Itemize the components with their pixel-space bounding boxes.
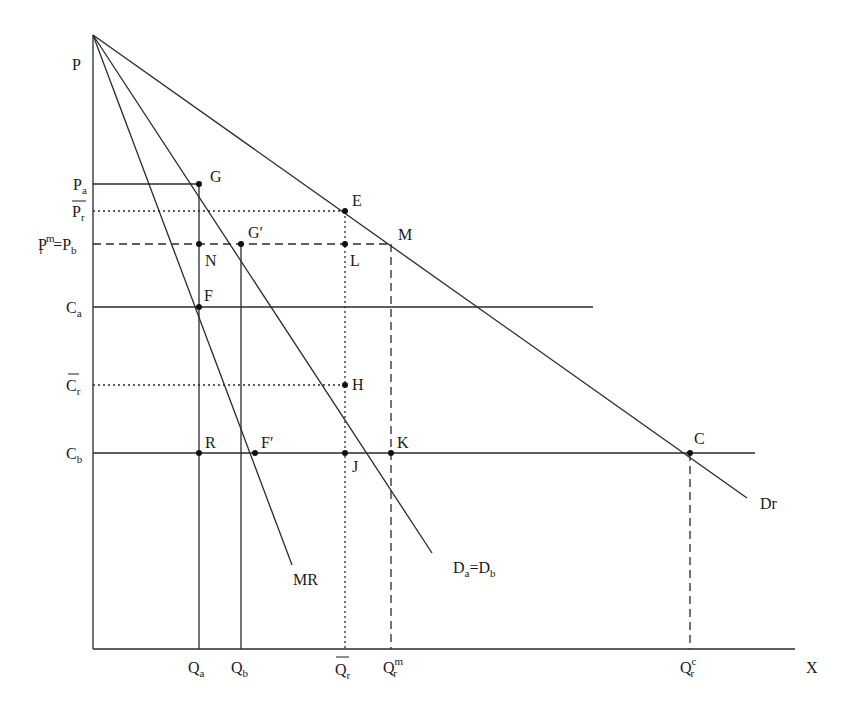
label-point-n: N	[205, 252, 217, 269]
label-point-r: R	[205, 434, 216, 451]
label-cb: Cb	[66, 445, 83, 465]
label-point-f-prime: F′	[261, 434, 273, 451]
label-cr-bar: Cr	[66, 377, 81, 397]
point-h	[342, 382, 348, 388]
label-point-c: C	[694, 430, 705, 447]
label-point-l: L	[350, 252, 360, 269]
point-f	[196, 304, 202, 310]
dr-demand-curve	[93, 35, 747, 498]
point-g-prime	[238, 241, 244, 247]
point-n	[196, 241, 202, 247]
point-g	[196, 181, 202, 187]
mr-curve	[93, 35, 292, 565]
label-qrm: Qmr	[383, 655, 404, 679]
label-dr: Dr	[760, 495, 778, 512]
point-k	[388, 450, 394, 456]
label-point-m: M	[398, 226, 412, 243]
point-r	[196, 450, 202, 456]
label-point-f: F	[204, 287, 213, 304]
label-qr-bar: Qr	[335, 661, 351, 681]
point-c	[687, 450, 693, 456]
point-e	[342, 208, 348, 214]
x-axis-label: X	[806, 659, 818, 676]
point-l	[342, 241, 348, 247]
label-point-e: E	[352, 192, 362, 209]
label-qa: Qa	[188, 659, 205, 679]
label-point-g: G	[210, 168, 222, 185]
point-f-prime	[252, 450, 258, 456]
da-db-demand-curve	[93, 35, 432, 553]
label-pa: Pa	[73, 176, 87, 196]
label-point-k: K	[397, 434, 409, 451]
label-pr-bar: Pr	[72, 203, 85, 223]
label-mr: MR	[293, 571, 318, 588]
label-qrc: Qcr	[680, 655, 697, 679]
y-axis-label: P	[72, 56, 81, 73]
monopoly-pricing-diagram: P X Pa Pr Pmr=Pb Ca Cr Cb Qa Qb Qr Qmr Q…	[0, 0, 862, 713]
label-point-g-prime: G′	[248, 224, 263, 241]
label-point-j: J	[352, 458, 358, 475]
label-da-db: Da=Db	[453, 559, 496, 579]
label-ca: Ca	[66, 299, 82, 319]
label-point-h: H	[352, 376, 364, 393]
point-j	[342, 450, 348, 456]
label-qb: Qb	[231, 659, 249, 679]
label-prm-pb: Pmr=Pb	[38, 232, 77, 256]
